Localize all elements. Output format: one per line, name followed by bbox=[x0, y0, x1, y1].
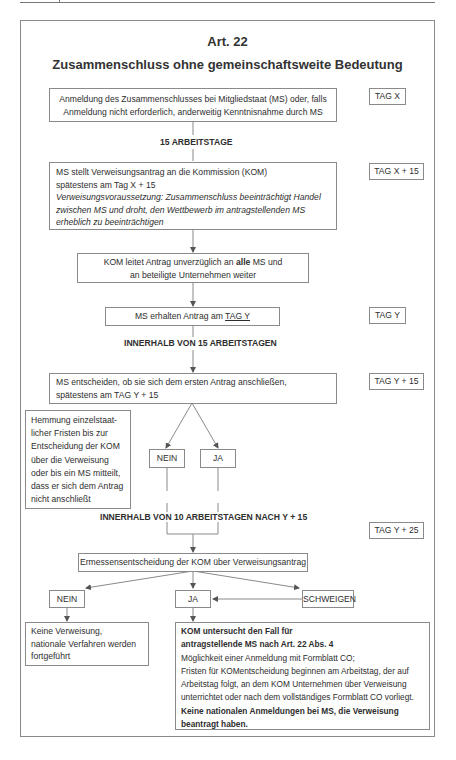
note-line: nicht anschließt bbox=[31, 493, 130, 506]
step-notification-line1: Anmeldung des Zusammenschlusses bei Mitg… bbox=[50, 93, 336, 106]
step-join-line1: MS entscheiden, ob sie sich dem ersten A… bbox=[56, 376, 336, 389]
period-15-workdays: 15 ARBEITSTAGE bbox=[160, 137, 233, 147]
step-forward-line2: an beteiligte Unternehmen weiter bbox=[78, 269, 308, 282]
tag-day-y-25: TAG Y + 25 bbox=[369, 522, 424, 539]
decision1-no-box: NEIN bbox=[149, 449, 185, 468]
note-line: über die Verweisung bbox=[31, 454, 130, 467]
note-line: Entscheidung der KOM bbox=[31, 440, 130, 453]
note-line: dass er sich dem Antrag bbox=[31, 480, 130, 493]
result-yes-line: Fristen für KOMentscheidung beginnen am … bbox=[181, 665, 429, 678]
step-notification-box: Anmeldung des Zusammenschlusses bei Mitg… bbox=[49, 88, 337, 122]
step-referral-condition1: Verweisungsvoraussetzung: Zusammenschlus… bbox=[56, 191, 336, 204]
tag-day-x: TAG X bbox=[369, 88, 406, 105]
decision1-yes-box: JA bbox=[200, 449, 236, 468]
note-line: licher Fristen bis zur bbox=[31, 427, 130, 440]
suspension-note-box: Hemmung einzelstaat- licher Fristen bis … bbox=[25, 410, 131, 509]
period-within-15-workdays: INNERHALB VON 15 ARBEITSTAGEN bbox=[124, 338, 277, 348]
step-referral-condition2: zwischen MS und droht, den Wettbewerb im… bbox=[56, 204, 336, 217]
step-referral-line1: MS stellt Verweisungsantrag an die Kommi… bbox=[56, 166, 336, 179]
note-line: Hemmung einzelstaat- bbox=[31, 414, 130, 427]
tag-day-y: TAG Y bbox=[369, 307, 406, 324]
step-join-line2: spätestens am TAG Y + 15 bbox=[56, 389, 336, 402]
note-line: oder bis ein MS mitteilt, bbox=[31, 467, 130, 480]
tag-day-y-15: TAG Y + 15 bbox=[369, 373, 424, 390]
step-forward-request-box: KOM leitet Antrag unverzüglich an alle M… bbox=[77, 253, 309, 283]
result-yes-bold-line: Keine nationalen Anmeldungen bei MS, die… bbox=[181, 705, 429, 718]
day-y-underlined: TAG Y bbox=[225, 311, 250, 321]
period-within-10-workdays: INNERHALB VON 10 ARBEITSTAGEN NACH Y + 1… bbox=[98, 512, 309, 522]
step-referral-condition3: erheblich zu beeinträchtigen bbox=[56, 216, 336, 229]
result-no-line: nationale Verfahren werden bbox=[31, 638, 148, 651]
result-yes-bold-line: KOM untersucht den Fall für bbox=[181, 625, 429, 638]
tag-day-x-15: TAG X + 15 bbox=[369, 163, 424, 180]
result-no-line: fortgeführt bbox=[31, 650, 148, 663]
decision2-silence-box: SCHWEIGEN bbox=[302, 590, 354, 608]
step-referral-request-box: MS stellt Verweisungsantrag an die Kommi… bbox=[49, 162, 337, 230]
result-referral-box: KOM untersucht den Fall für antragstelle… bbox=[175, 622, 430, 730]
step-commission-decision-box: Ermessensentscheidung der KOM über Verwe… bbox=[78, 553, 308, 572]
result-yes-bold-line: beantragt haben. bbox=[181, 718, 429, 731]
step-forward-line1: KOM leitet Antrag unverzüglich an alle M… bbox=[78, 256, 308, 269]
result-yes-line: Möglichkeit einer Anmeldung mit Formblat… bbox=[181, 652, 429, 665]
step-referral-line2: spätestens am Tag X + 15 bbox=[56, 179, 336, 192]
result-no-line: Keine Verweisung, bbox=[31, 625, 148, 638]
result-no-referral-box: Keine Verweisung, nationale Verfahren we… bbox=[25, 622, 149, 666]
step-receive-request-box: MS erhalten Antrag am TAG Y bbox=[105, 307, 280, 326]
decision2-no-box: NEIN bbox=[49, 590, 85, 608]
step-notification-line2: Anmeldung nicht erforderlich, anderweiti… bbox=[50, 106, 336, 119]
result-yes-line: Arbeitstag folgt, an dem KOM Unternehmen… bbox=[181, 678, 429, 691]
result-yes-bold-line: antragstellende MS nach Art. 22 Abs. 4 bbox=[181, 638, 429, 651]
result-yes-line: unterrichtet oder nach dem vollständiges… bbox=[181, 691, 429, 704]
decision2-yes-box: JA bbox=[175, 590, 211, 608]
step-join-decision-box: MS entscheiden, ob sie sich dem ersten A… bbox=[49, 373, 337, 404]
